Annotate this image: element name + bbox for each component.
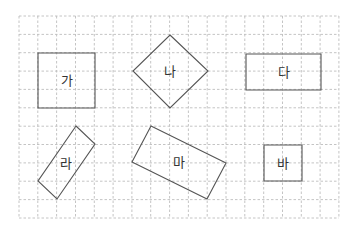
shape-ga-label: 가	[61, 73, 73, 88]
shape-da-label: 다	[278, 65, 290, 80]
dashed-grid	[19, 16, 339, 218]
shape-ra-label: 라	[60, 156, 72, 171]
shapes-layer: 가 나 다 라 마 바	[38, 35, 321, 199]
shape-ba-label: 바	[277, 156, 289, 171]
shape-ba: 바	[264, 145, 302, 181]
shape-ma-label: 마	[173, 155, 185, 170]
shape-na-label: 나	[164, 64, 176, 79]
grid-diagram: 가 나 다 라 마 바	[0, 0, 357, 229]
shape-da: 다	[246, 54, 321, 90]
shape-ga: 가	[38, 53, 95, 108]
